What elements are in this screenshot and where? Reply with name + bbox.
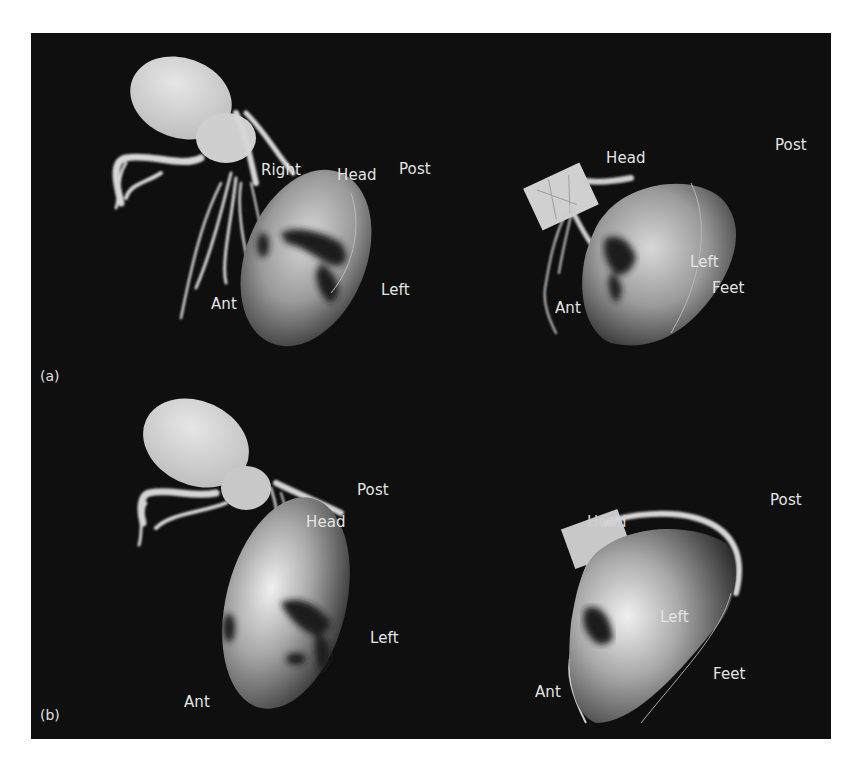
label-ant: Ant [535, 685, 561, 700]
label-left: Left [690, 255, 719, 270]
heart-renderings [31, 33, 831, 739]
panel-tag-a: (a) [40, 369, 60, 383]
label-right: Right [261, 163, 301, 178]
label-ant: Ant [184, 695, 210, 710]
label-feet: Feet [712, 281, 745, 296]
label-post: Post [775, 138, 807, 153]
label-head: Head [337, 168, 377, 183]
figure-frame: Right Head Post Left Ant Head Post Left … [31, 33, 831, 739]
label-left: Left [660, 610, 689, 625]
panel-a-left-heart [116, 43, 396, 366]
label-ant: Ant [555, 301, 581, 316]
label-ant: Ant [211, 297, 237, 312]
panel-tag-b: (b) [40, 708, 60, 722]
label-post: Post [357, 483, 389, 498]
panel-b-right-heart [561, 509, 739, 723]
label-feet: Feet [713, 667, 746, 682]
label-head: Head [606, 151, 646, 166]
label-left: Left [370, 631, 399, 646]
label-post: Post [770, 493, 802, 508]
label-head: Head [587, 515, 627, 530]
label-left: Left [381, 283, 410, 298]
label-post: Post [399, 162, 431, 177]
label-head: Head [306, 515, 346, 530]
panel-b-left-heart [128, 382, 370, 723]
